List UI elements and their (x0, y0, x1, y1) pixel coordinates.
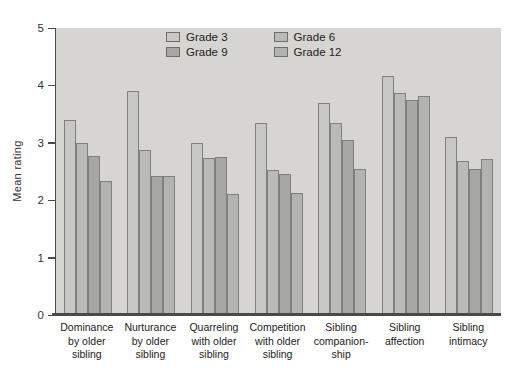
plot-area: Grade 3Grade 6Grade 9Grade 12 012345 (55, 28, 501, 315)
bar-grade-3 (64, 120, 76, 315)
y-tick-mark (48, 315, 56, 317)
category-label: Quarreling with older sibling (182, 321, 246, 362)
bar-grade-12 (163, 176, 175, 315)
x-axis-labels: Dominance by older siblingNurturance by … (55, 321, 500, 362)
bar-grade-6 (203, 158, 215, 315)
y-tick-label: 1 (24, 252, 44, 264)
bar-group (183, 28, 247, 315)
bar-grade-9 (406, 100, 418, 315)
bar-grade-9 (88, 156, 100, 315)
y-tick-mark (48, 28, 56, 30)
bar-grade-6 (139, 150, 151, 315)
bar-grade-12 (481, 159, 493, 315)
y-axis-title: Mean rating (11, 140, 23, 201)
bar-grade-6 (267, 170, 279, 315)
bar-grade-3 (255, 123, 267, 315)
bar-grade-12 (100, 181, 112, 315)
bar-grade-9 (342, 140, 354, 315)
bar-grade-3 (445, 137, 457, 315)
bar-group (437, 28, 501, 315)
y-tick-mark (48, 200, 56, 202)
bar-grade-6 (394, 93, 406, 315)
bar-grade-9 (151, 176, 163, 315)
bar-grade-3 (191, 143, 203, 315)
bar-grade-12 (418, 96, 430, 315)
category-label: Dominance by older sibling (55, 321, 119, 362)
category-label: Sibling companion- ship (309, 321, 373, 362)
bar-grade-6 (330, 123, 342, 315)
bar-grade-3 (318, 103, 330, 315)
bar-grade-3 (382, 76, 394, 315)
y-tick-mark (48, 257, 56, 259)
category-label: Competition with older sibling (246, 321, 310, 362)
bar-group (374, 28, 438, 315)
category-label: Nurturance by older sibling (119, 321, 183, 362)
bar-grade-12 (227, 194, 239, 315)
y-tick-label: 4 (24, 79, 44, 91)
y-tick-label: 5 (24, 22, 44, 34)
bar-grade-6 (76, 143, 88, 315)
bar-group (247, 28, 311, 315)
bar-chart-figure: Mean rating Grade 3Grade 6Grade 9Grade 1… (0, 0, 517, 377)
bar-group (56, 28, 120, 315)
bar-grade-12 (354, 169, 366, 315)
y-tick-label: 2 (24, 194, 44, 206)
bar-grade-9 (279, 174, 291, 315)
x-axis-line (52, 313, 501, 316)
bar-grade-9 (215, 157, 227, 315)
category-label: Sibling intimacy (436, 321, 500, 362)
bar-group (120, 28, 184, 315)
bar-groups (56, 28, 501, 315)
bar-group (310, 28, 374, 315)
category-label: Sibling affection (373, 321, 437, 362)
y-tick-label: 0 (24, 309, 44, 321)
bar-grade-12 (291, 193, 303, 315)
bar-grade-3 (127, 91, 139, 315)
bar-grade-6 (457, 161, 469, 315)
y-tick-mark (48, 85, 56, 87)
y-tick-mark (48, 142, 56, 144)
y-tick-label: 3 (24, 137, 44, 149)
bar-grade-9 (469, 169, 481, 315)
